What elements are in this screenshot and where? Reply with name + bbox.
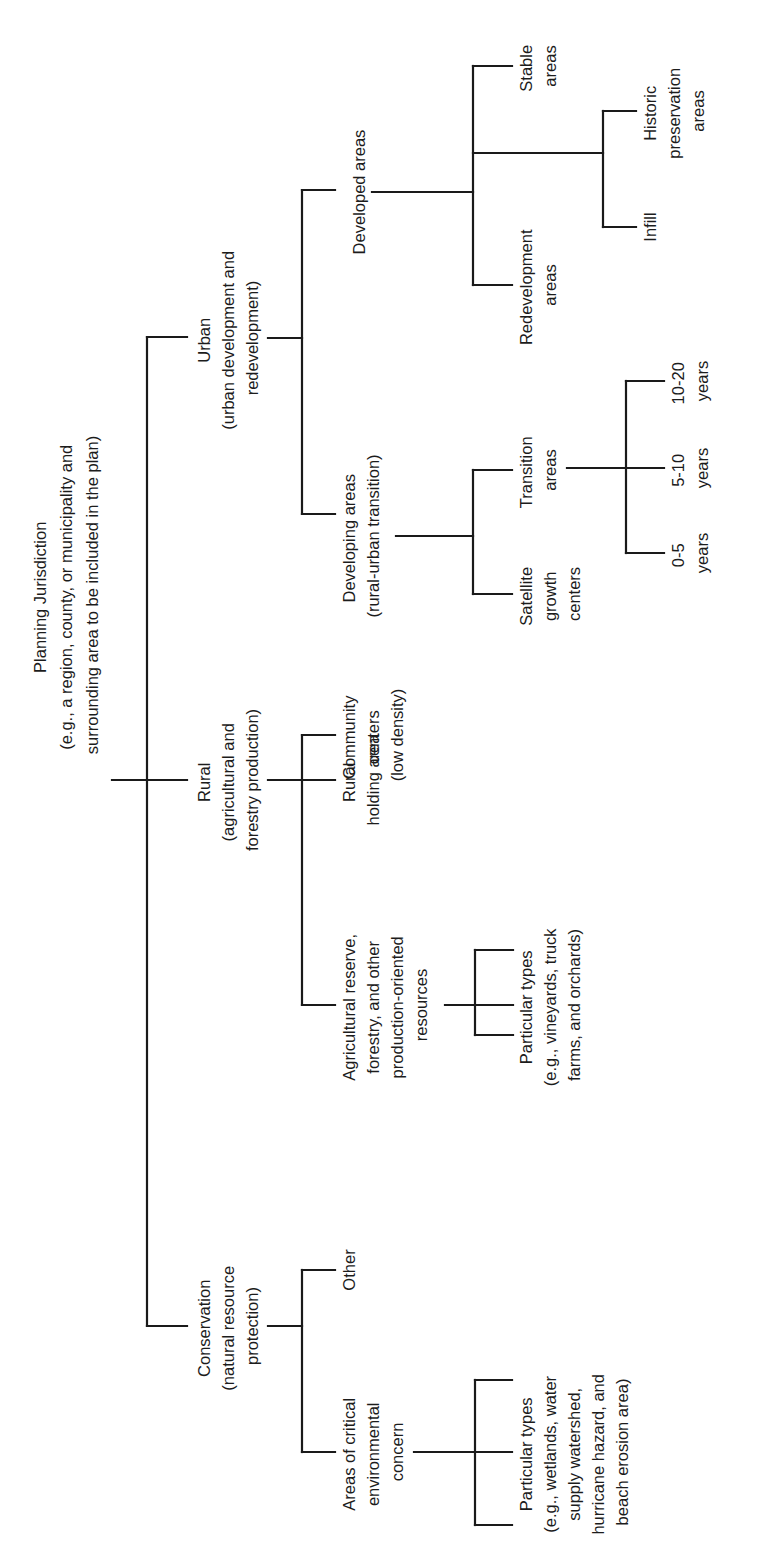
planning-jurisdiction-tree-diagram: Planning Jurisdiction (e.g., a region, c…	[0, 0, 758, 1567]
node-stable-areas: Stable areas	[517, 40, 559, 91]
node-agricultural-particular-types: Particular types (e.g., vineyards, truck…	[517, 924, 583, 1086]
node-agricultural-reserve: Agricultural reserve, forestry, and othe…	[340, 929, 430, 1080]
node-redevelopment-areas: Redevelopment areas	[517, 225, 559, 345]
node-rural: Rural (agricultural and forestry product…	[195, 709, 261, 851]
node-infill: Infill	[641, 212, 659, 241]
node-planning-jurisdiction: Planning Jurisdiction (e.g., a region, c…	[31, 436, 101, 754]
node-5-10-years: 5-10 years	[669, 448, 711, 488]
node-historic-preservation-areas: Historic preservation areas	[641, 63, 707, 158]
node-developed-areas: Developed areas	[350, 130, 368, 255]
node-urban: Urban (urban development and redevelopme…	[195, 246, 261, 429]
node-10-20-years: 10-20 years	[669, 358, 711, 405]
node-areas-of-critical-concern: Areas of critical environmental concern	[340, 1393, 406, 1510]
node-conservation-particular-types: Particular types (e.g., wetlands, water …	[517, 1369, 631, 1534]
node-other: Other	[340, 1249, 358, 1291]
node-transition-areas: Transition areas	[517, 432, 559, 508]
node-0-5-years: 0-5 years	[669, 533, 711, 573]
node-satellite-growth-centers: Satellite growth centers	[517, 562, 583, 625]
node-developing-areas: Developing areas (rural-urban transition…	[340, 454, 382, 617]
node-conservation: Conservation (natural resource protectio…	[195, 1261, 261, 1390]
